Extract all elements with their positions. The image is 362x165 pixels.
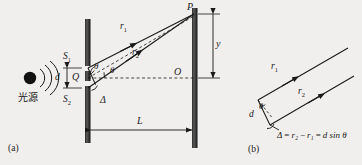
equation-delta: Δ <box>277 130 282 140</box>
path-difference-equation: Δ=r₂−r₁=d sin θ <box>277 131 347 140</box>
panel-b-angle-theta-label: θ <box>259 102 263 111</box>
panel-a-caption: (a) <box>8 144 19 154</box>
double-slit-interference-figure: 光源 S1 S2 d Q r1 r2 θ θ Δ P O y L (a) <box>0 0 362 165</box>
equation-minus: − <box>300 130 305 140</box>
ray-r1-subscript: 1 <box>124 26 127 33</box>
ray-r2-label: r2 <box>132 48 139 59</box>
panel-b-ray-r1-arrowhead <box>282 78 296 86</box>
panel-b-ray-r2-arrowhead <box>308 95 322 103</box>
slit-s1-label: S1 <box>63 52 71 63</box>
slit-s2-subscript: 2 <box>68 99 71 106</box>
panel-b-ray-r1-label: r1 <box>271 62 278 73</box>
slit-separation-label: d <box>55 73 60 83</box>
path-difference-label: Δ <box>100 95 106 105</box>
point-p-label: P <box>187 2 193 12</box>
slit-s1-subscript: 1 <box>68 56 71 63</box>
panel-b-ray-r1-subscript: 1 <box>275 66 278 73</box>
equation-equals-2: = <box>316 130 321 140</box>
equation-r2: r₂ <box>291 130 298 140</box>
light-source-label: 光源 <box>18 93 38 103</box>
panel-b-slit-separation-label: d <box>249 110 254 120</box>
barrier-upper-segment <box>85 19 91 66</box>
ray-r1-line <box>88 14 194 68</box>
panel-b-graphic <box>240 0 362 165</box>
angle-theta-upper-label: θ <box>94 62 98 71</box>
wavefront-arc-2 <box>45 65 52 91</box>
midpoint-q-label: Q <box>72 72 79 82</box>
fringe-position-label: y <box>216 39 220 49</box>
screen-distance-label: L <box>137 116 143 126</box>
barrier-lower-segment <box>85 86 91 143</box>
panel-b-ray-r2-subscript: 2 <box>302 91 305 98</box>
equation-r1: r₁ <box>307 130 314 140</box>
angle-theta-lower-label: θ <box>110 66 114 75</box>
wavefront-arc-1 <box>40 69 45 87</box>
slit-s2-label: S2 <box>63 95 71 106</box>
ray-r1-label: r1 <box>120 22 127 33</box>
light-source-dot <box>24 72 36 84</box>
panel-b-ray-r2-label: r2 <box>298 87 305 98</box>
equation-equals-1: = <box>284 130 289 140</box>
panel-b-caption: (b) <box>248 145 259 155</box>
ray-r2-subscript: 2 <box>136 52 139 59</box>
path-difference-arc-lower <box>92 86 98 91</box>
origin-o-label: O <box>174 67 181 77</box>
equation-result: d sin θ <box>323 130 347 140</box>
